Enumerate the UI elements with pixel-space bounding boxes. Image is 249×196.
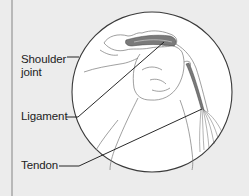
- label-shoulder-line1: Shoulder: [21, 53, 66, 66]
- diagram-panel: Shoulder joint Ligament Tendon: [0, 0, 249, 196]
- label-tendon: Tendon: [21, 159, 58, 172]
- label-shoulder-joint: Shoulder joint: [21, 53, 66, 79]
- label-shoulder-line2: joint: [21, 66, 66, 79]
- label-ligament: Ligament: [21, 110, 68, 123]
